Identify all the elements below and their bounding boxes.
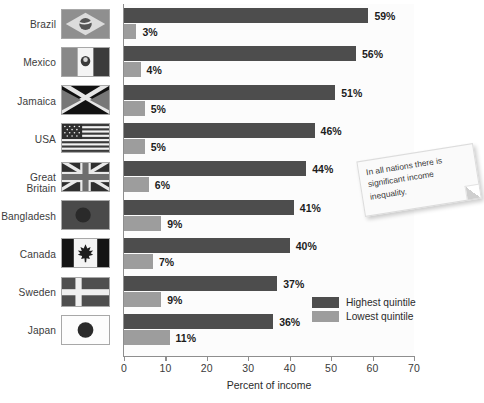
x-axis-tick-label: 60 xyxy=(367,362,379,374)
bar-highest-quintile xyxy=(124,46,356,61)
x-axis-tick-label: 30 xyxy=(242,362,254,374)
country-label-canada: Canada xyxy=(0,249,56,260)
x-axis-tick xyxy=(165,356,166,361)
bar-lowest-quintile xyxy=(124,216,161,231)
sticky-note-fold-corner xyxy=(464,184,480,200)
country-label-bangladesh: Bangladesh xyxy=(0,211,56,222)
bar-highest-quintile xyxy=(124,238,290,253)
legend-label-lowest-quintile: Lowest quintile xyxy=(346,311,413,322)
country-label-great-britain: Great Britain xyxy=(0,172,56,194)
country-label-japan: Japan xyxy=(0,325,56,336)
x-axis-tick-label: 0 xyxy=(121,362,127,374)
x-axis-line xyxy=(123,356,414,357)
bar-value-lowest-quintile: 5% xyxy=(151,141,166,153)
bar-highest-quintile xyxy=(124,161,306,176)
legend-swatch-highest-quintile xyxy=(312,297,339,308)
bar-lowest-quintile xyxy=(124,177,149,192)
sweden-flag-icon xyxy=(61,277,110,307)
x-axis-tick xyxy=(248,356,249,361)
sticky-note-text: In all nations there is significant inco… xyxy=(365,150,473,203)
country-label-usa: USA xyxy=(0,134,56,145)
bar-lowest-quintile xyxy=(124,101,145,116)
country-label-brazil: Brazil xyxy=(0,19,56,30)
country-label-mexico: Mexico xyxy=(0,57,56,68)
bar-value-highest-quintile: 41% xyxy=(300,202,321,214)
country-label-jamaica: Jamaica xyxy=(0,96,56,107)
jamaica-flag-icon xyxy=(61,85,110,115)
bar-lowest-quintile xyxy=(124,62,141,77)
x-axis-title: Percent of income xyxy=(124,379,414,391)
bar-value-highest-quintile: 51% xyxy=(341,87,362,99)
bar-value-lowest-quintile: 5% xyxy=(151,103,166,115)
canada-flag-icon xyxy=(61,238,110,268)
bar-value-highest-quintile: 40% xyxy=(296,240,317,252)
bar-highest-quintile xyxy=(124,276,277,291)
income-inequality-bar-chart: Brazil59%3%Mexico56%4%Jamaica51%5%USA46%… xyxy=(0,0,484,403)
bar-value-lowest-quintile: 9% xyxy=(167,218,182,230)
mexico-flag-icon xyxy=(61,47,110,77)
x-axis-tick-label: 40 xyxy=(284,362,296,374)
bar-highest-quintile xyxy=(124,8,368,23)
country-label-sweden: Sweden xyxy=(0,287,56,298)
bar-value-lowest-quintile: 9% xyxy=(167,294,182,306)
legend-swatch-lowest-quintile xyxy=(312,311,339,322)
bar-value-lowest-quintile: 7% xyxy=(159,256,174,268)
bar-highest-quintile xyxy=(124,200,294,215)
bar-value-lowest-quintile: 11% xyxy=(176,332,196,344)
x-axis-tick-label: 20 xyxy=(201,362,213,374)
x-axis-tick xyxy=(331,356,332,361)
usa-flag-icon xyxy=(61,123,110,153)
x-axis-tick xyxy=(207,356,208,361)
x-axis-tick-label: 70 xyxy=(408,362,420,374)
brazil-flag-icon xyxy=(61,9,110,39)
x-axis-tick xyxy=(373,356,374,361)
bar-value-highest-quintile: 37% xyxy=(283,278,304,290)
bar-lowest-quintile xyxy=(124,139,145,154)
legend-item-lowest-quintile: Lowest quintile xyxy=(312,311,416,322)
legend-label-highest-quintile: Highest quintile xyxy=(346,297,416,308)
bar-lowest-quintile xyxy=(124,330,170,345)
bar-value-lowest-quintile: 3% xyxy=(142,26,157,38)
x-axis-tick xyxy=(124,356,125,361)
chart-legend: Highest quintile Lowest quintile xyxy=(312,297,416,325)
bar-highest-quintile xyxy=(124,85,335,100)
bangladesh-flag-icon xyxy=(61,200,110,230)
bar-highest-quintile xyxy=(124,123,315,138)
legend-item-highest-quintile: Highest quintile xyxy=(312,297,416,308)
bar-highest-quintile xyxy=(124,314,273,329)
x-axis-tick xyxy=(414,356,415,361)
great-britain-flag-icon xyxy=(61,162,110,192)
bar-lowest-quintile xyxy=(124,254,153,269)
japan-flag-icon xyxy=(61,315,110,345)
x-axis-tick-label: 50 xyxy=(325,362,337,374)
bar-lowest-quintile xyxy=(124,24,136,39)
bar-value-lowest-quintile: 6% xyxy=(155,179,170,191)
bar-value-highest-quintile: 46% xyxy=(321,125,342,137)
bar-value-highest-quintile: 59% xyxy=(374,10,395,22)
bar-value-highest-quintile: 36% xyxy=(279,316,300,328)
bar-value-highest-quintile: 44% xyxy=(312,163,333,175)
x-axis-tick xyxy=(290,356,291,361)
bar-lowest-quintile xyxy=(124,292,161,307)
x-axis-tick-label: 10 xyxy=(159,362,171,374)
bar-value-lowest-quintile: 4% xyxy=(147,64,162,76)
bar-value-highest-quintile: 56% xyxy=(362,48,383,60)
